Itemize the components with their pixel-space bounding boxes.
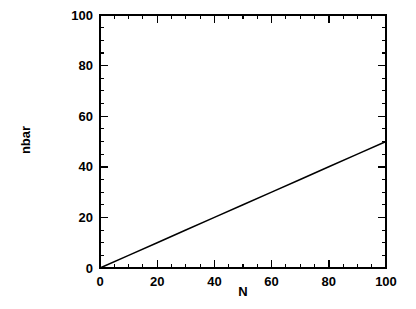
chart-figure: 020406080100 020406080100 N nbar [0,0,416,309]
x-axis-title: N [238,284,247,299]
x-tick-label: 80 [322,274,336,289]
x-tick-label: 60 [264,274,278,289]
y-tick-label: 100 [71,8,93,23]
chart-background [0,0,416,309]
y-tick-label: 40 [79,159,93,174]
y-tick-label: 60 [79,109,93,124]
y-axis-title: nbar [18,126,33,154]
x-tick-label: 40 [207,274,221,289]
y-tick-label: 80 [79,58,93,73]
y-tick-label: 20 [79,210,93,225]
x-tick-label: 20 [150,274,164,289]
x-tick-label: 0 [96,274,103,289]
y-tick-label: 0 [86,261,93,276]
x-tick-label: 100 [375,274,397,289]
